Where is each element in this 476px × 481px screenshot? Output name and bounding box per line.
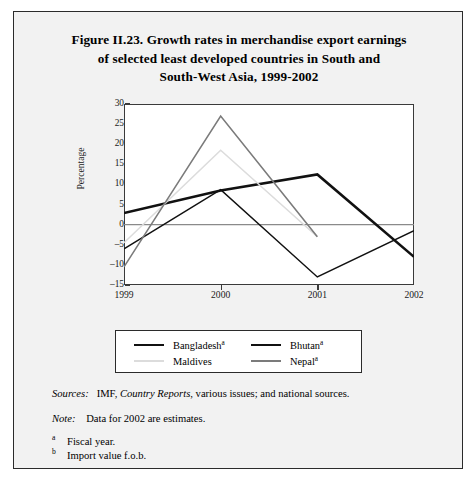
legend-label-bhutan: Bhutana <box>290 340 323 351</box>
title-line-3: South-West Asia, 1999-2002 <box>32 68 446 87</box>
legend-label-bangladesh: Bangladesha <box>173 340 225 351</box>
footnote-a-text: Fiscal year. <box>67 436 115 447</box>
y-tick-label: 15 <box>94 159 124 168</box>
legend-label-nepal: Nepala <box>290 356 318 367</box>
chart-legend: BangladeshaBhutanaMaldivesNepala <box>115 330 362 373</box>
plot-lines <box>124 104 414 285</box>
legend-item-bangladesh[interactable]: Bangladesha <box>134 337 225 353</box>
y-tick: 25 <box>82 119 124 129</box>
y-tick: 5 <box>82 200 124 210</box>
sources-label: Sources: <box>52 388 89 399</box>
x-tick-mark <box>221 285 222 290</box>
note-text: Data for 2002 are estimates. <box>78 413 205 424</box>
x-tick-label: 2002 <box>391 289 437 300</box>
y-tick-label: 20 <box>94 139 124 148</box>
y-tick-label: –10 <box>94 260 124 269</box>
y-tick: 0 <box>82 220 124 230</box>
note-label: Note: <box>52 413 76 424</box>
footnote-b: bImport value f.o.b. <box>52 449 146 462</box>
y-tick: 10 <box>82 179 124 189</box>
sources-text: IMF, Country Reports, various issues; an… <box>91 388 349 399</box>
y-tick-label: 10 <box>94 179 124 188</box>
series-line-maldives <box>124 150 317 243</box>
x-tick-label: 2000 <box>198 289 244 300</box>
y-tick-label: 5 <box>94 200 124 209</box>
footnote-b-text: Import value f.o.b. <box>67 450 146 461</box>
y-tick: –5 <box>82 240 124 250</box>
legend-swatch-maldives <box>134 356 164 366</box>
legend-label-maldives: Maldives <box>173 356 212 367</box>
y-tick-label: 0 <box>94 220 124 229</box>
y-tick: –10 <box>82 260 124 270</box>
y-tick-label: –5 <box>94 240 124 249</box>
y-tick-label: 30 <box>94 99 124 108</box>
legend-item-maldives[interactable]: Maldives <box>134 353 212 369</box>
line-chart: Percentage 302520151050–5–10–15 19992000… <box>68 99 420 309</box>
general-note: Note: Data for 2002 are estimates. <box>52 412 205 425</box>
legend-swatch-bangladesh <box>134 340 164 350</box>
y-tick-label: 25 <box>94 119 124 128</box>
legend-item-nepal[interactable]: Nepala <box>251 353 318 369</box>
title-line-2: of selected least developed countries in… <box>32 50 446 69</box>
y-tick: 30 <box>82 99 124 109</box>
x-tick-label: 2001 <box>294 289 340 300</box>
series-line-bangladesh <box>124 174 414 256</box>
legend-swatch-bhutan <box>251 340 281 350</box>
y-tick: 15 <box>82 159 124 169</box>
y-tick-label: –15 <box>94 280 124 289</box>
y-tick: 20 <box>82 139 124 149</box>
legend-swatch-nepal <box>251 356 281 366</box>
title-line-1: Figure II.23. Growth rates in merchandis… <box>32 31 446 50</box>
footnote-a: aFiscal year. <box>52 435 115 448</box>
x-tick-mark <box>317 285 318 290</box>
legend-item-bhutan[interactable]: Bhutana <box>251 337 323 353</box>
figure-title: Figure II.23. Growth rates in merchandis… <box>32 31 446 87</box>
figure-container: Figure II.23. Growth rates in merchandis… <box>13 11 463 469</box>
x-tick-label: 1999 <box>101 289 147 300</box>
sources-note: Sources: IMF, Country Reports, various i… <box>52 387 349 400</box>
